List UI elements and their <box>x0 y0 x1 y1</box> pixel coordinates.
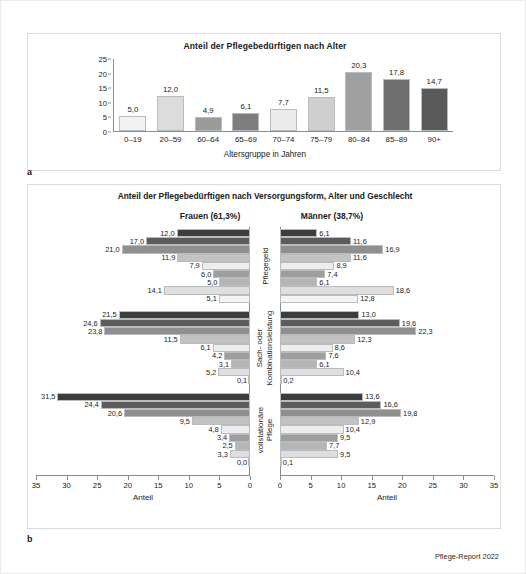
panel-b-x-tick-mark <box>402 476 403 480</box>
panel-b-x-tick-label: 25 <box>93 481 102 490</box>
panel-b-x-tick-label: 20 <box>123 481 132 490</box>
panel-b-bar-row: 8,6 <box>280 344 494 352</box>
panel-a-x-tick-label: 70–74 <box>265 135 303 148</box>
panel-b-bar <box>280 458 282 466</box>
panel-b-x-tick-label: 20 <box>398 481 407 490</box>
panel-b-bar <box>280 409 401 417</box>
panel-b-x-tick-mark <box>494 476 495 480</box>
panel-b-bar <box>280 344 333 352</box>
panel-b-x-tick-label: 0 <box>248 481 252 490</box>
panel-a-y-axis: 0510152025 <box>87 59 107 132</box>
panel-a-y-tick-label: 0 <box>87 128 107 137</box>
panel-a-bar-value: 17,8 <box>378 68 416 77</box>
panel-b-group-labels: PflegegeldSach- oderKombinationsleistung… <box>250 227 280 485</box>
panel-a-bar <box>383 79 410 131</box>
panel-a-y-tick-label: 5 <box>87 113 107 122</box>
panel-b-bar <box>192 417 250 425</box>
panel-b-x-tick-mark <box>311 476 312 480</box>
panel-a-bar-group: 11,5 <box>302 58 340 131</box>
panel-a-bar-group: 14,7 <box>415 58 453 131</box>
panel-b-bar-row: 0,2 <box>280 376 494 384</box>
panel-b-group: 6,111,616,911,68,97,46,118,612,8 <box>280 229 494 303</box>
panel-b-x-tick-label: 5 <box>308 481 312 490</box>
panel-b-bar-row: 5,2 <box>36 368 250 376</box>
panel-b-x-tick-mark <box>250 476 251 480</box>
panel-b-x-axis-left: Anteil 05101520253035 <box>36 476 250 506</box>
panel-b-bar <box>280 311 359 319</box>
panel-b-x-axis-title-right: Anteil <box>280 493 494 502</box>
panel-b-x-tick-mark <box>158 476 159 480</box>
panel-b: Anteil der Pflegebedürftigen nach Versor… <box>27 184 501 529</box>
panel-a-bar <box>195 117 222 131</box>
panel-a-x-tick-label: 75–79 <box>302 135 340 148</box>
panel-b-bar <box>280 401 381 409</box>
panel-b-x-tick-mark <box>463 476 464 480</box>
panel-b-bar-row: 17,0 <box>36 237 250 245</box>
panel-a-y-tick-mark <box>108 88 111 89</box>
panel-a: Anteil der Pflegebedürftigen nach Alter … <box>27 33 501 171</box>
panel-b-bar-row: 10,4 <box>280 368 494 376</box>
panel-b-x-axis-title-left: Anteil <box>36 493 250 502</box>
panel-b-bar-row: 21,5 <box>36 311 250 319</box>
panel-b-bar-value: 0,0 <box>237 458 247 467</box>
panel-b-x-tick-mark <box>189 476 190 480</box>
panel-a-y-tick-mark <box>108 59 111 60</box>
panel-a-y-tick-label: 20 <box>87 69 107 78</box>
panel-a-x-tick-label: 80–84 <box>340 135 378 148</box>
panel-b-x-tick-label: 25 <box>429 481 438 490</box>
panel-b-bar-row: 7,9 <box>36 262 250 270</box>
panel-b-pane-maenner: 6,111,616,911,68,97,46,118,612,813,019,6… <box>280 227 494 485</box>
panel-b-bar-row: 12,8 <box>280 295 494 303</box>
panel-a-bar <box>270 109 297 131</box>
panel-b-bar-row: 3,3 <box>36 450 250 458</box>
panel-a-bar-value: 4,9 <box>189 106 227 115</box>
panel-b-bar-row: 16,9 <box>280 245 494 253</box>
panel-b-bar-row: 31,5 <box>36 393 250 401</box>
panel-b-bar-row: 6,1 <box>280 360 494 368</box>
panel-a-y-tick-label: 10 <box>87 98 107 107</box>
panel-b-bar-row: 11,5 <box>36 335 250 343</box>
panel-b-x-tick-label: 30 <box>62 481 71 490</box>
panel-b-bar-row: 12,3 <box>280 335 494 343</box>
panel-b-bar <box>119 311 250 319</box>
panel-b-bar <box>280 229 317 237</box>
panel-b-bar <box>280 286 394 294</box>
panel-b-x-tick-mark <box>280 476 281 480</box>
panel-a-bar <box>345 72 372 131</box>
panel-b-x-tick-mark <box>36 476 37 480</box>
panel-b-bar <box>280 360 317 368</box>
panel-b-x-tick-label: 35 <box>490 481 499 490</box>
panel-a-plot-area: 0510152025 5,012,04,96,17,711,520,317,81… <box>113 59 453 132</box>
panel-b-bar-row: 7,7 <box>280 442 494 450</box>
panel-a-bar-value: 14,7 <box>415 77 453 86</box>
panel-b-bar-row: 11,6 <box>280 254 494 262</box>
panel-a-bar-group: 6,1 <box>227 58 265 131</box>
panel-b-group: 31,524,420,69,54,83,42,53,30,0 <box>36 393 250 467</box>
panel-b-bar-row: 0,0 <box>36 458 250 466</box>
panel-b-group-label: Sach- oderKombinationsleistung <box>255 310 274 385</box>
panel-b-bar-row: 6,0 <box>36 270 250 278</box>
panel-b-bar-row: 19,6 <box>280 319 494 327</box>
panel-b-bar <box>235 442 250 450</box>
panel-b-bar-row: 12,9 <box>280 417 494 425</box>
panel-b-bar <box>219 278 250 286</box>
panel-b-header-frauen: Frauen (61,3%) <box>158 211 262 221</box>
panel-b-bar-row: 6,1 <box>280 278 494 286</box>
panel-b-bar-row: 22,3 <box>280 327 494 335</box>
panel-b-bar-row: 0,1 <box>280 458 494 466</box>
panel-a-x-tick-label: 65–69 <box>227 135 265 148</box>
panel-b-bar <box>280 319 400 327</box>
panel-b-bar-row: 10,4 <box>280 425 494 433</box>
panel-b-plot-area: 12,017,021,011,97,96,05,014,15,121,524,6… <box>36 227 494 485</box>
panel-a-y-tick-mark <box>108 117 111 118</box>
panel-b-bar <box>280 295 358 303</box>
panel-a-x-tick-label: 85–89 <box>378 135 416 148</box>
panel-a-bar-value: 7,7 <box>265 98 303 107</box>
panel-b-bar-row: 24,4 <box>36 401 250 409</box>
panel-b-bar <box>280 237 351 245</box>
panel-b-bar <box>219 295 250 303</box>
panel-a-x-axis-label: Altersgruppe in Jahren <box>28 150 502 159</box>
panel-b-bar-row: 14,1 <box>36 286 250 294</box>
panel-a-title: Anteil der Pflegebedürftigen nach Alter <box>28 41 502 51</box>
panel-b-x-axis-right: Anteil 05101520253035 <box>280 476 494 506</box>
